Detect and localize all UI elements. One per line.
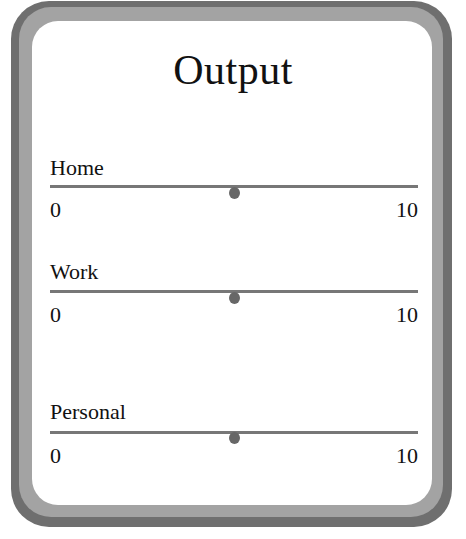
slider-min-label-work: 0 [50, 303, 61, 327]
slider-max-label-home: 10 [396, 198, 418, 222]
slider-min-label-personal: 0 [50, 444, 61, 468]
slider-thumb-home[interactable] [229, 187, 240, 199]
slider-max-label-personal: 10 [396, 444, 418, 468]
slider-thumb-personal[interactable] [229, 432, 240, 444]
panel-title: Output [0, 42, 466, 98]
slider-label-personal: Personal [50, 400, 126, 424]
slider-min-label-home: 0 [50, 198, 61, 222]
slider-label-work: Work [50, 260, 98, 284]
slider-max-label-work: 10 [396, 303, 418, 327]
slider-label-home: Home [50, 156, 104, 180]
slider-thumb-work[interactable] [229, 292, 240, 304]
